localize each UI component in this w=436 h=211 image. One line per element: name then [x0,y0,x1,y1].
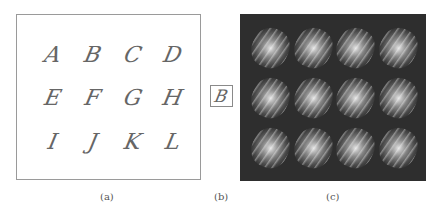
caption-b: (b) [214,191,228,202]
glyph-l: L [148,120,197,163]
filter-cell [330,72,380,124]
filter-cell [330,22,380,74]
filter-cell [245,22,295,74]
filter-cell [373,22,423,74]
panel-b-single-glyph: B [210,85,233,107]
filter-cell [245,72,295,124]
caption-a: (a) [100,191,114,202]
filter-cell [373,72,423,124]
filter-grid [252,28,416,168]
filter-cell [288,22,338,74]
filter-cell [330,122,380,174]
glyph-d: D [148,33,197,76]
filter-cell [373,122,423,174]
filter-cell [288,122,338,174]
filter-cell [245,122,295,174]
caption-c: (c) [326,191,339,202]
letter-grid: A B C D E F G H I J K L [33,33,193,163]
panel-a-letter-grid: A B C D E F G H I J K L [16,14,201,180]
glyph-h: H [148,76,197,119]
panel-c-filter-grid [240,14,426,181]
glyph-b-single: B [213,86,230,106]
filter-cell [288,72,338,124]
